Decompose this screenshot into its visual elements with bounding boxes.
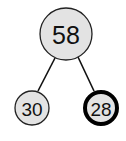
tree-node-root: 58 — [40, 8, 92, 60]
edge-root-right — [78, 57, 94, 91]
tree-node-left: 30 — [15, 91, 49, 125]
node-label-root: 58 — [52, 21, 80, 49]
node-label-right: 28 — [90, 99, 111, 120]
tree-node-right: 28 — [85, 92, 117, 124]
node-label-left: 30 — [21, 99, 42, 120]
edge-root-left — [38, 58, 55, 91]
binary-tree-diagram: 58 30 28 — [0, 0, 126, 141]
